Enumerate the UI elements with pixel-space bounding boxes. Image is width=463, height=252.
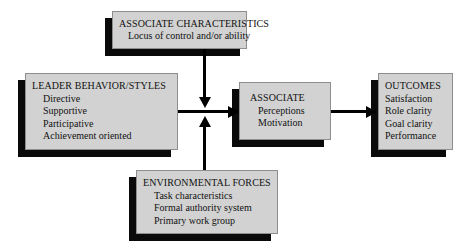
box-item: Supportive (32, 105, 171, 118)
box-title: LEADER BEHAVIOR/STYLES (32, 80, 171, 93)
box-leader-behavior-styles: LEADER BEHAVIOR/STYLES Directive Support… (25, 73, 178, 150)
box-title: OUTCOMES (385, 80, 446, 93)
box-item: Motivation (250, 117, 324, 130)
connector-characteristics-to-associate-arrowhead (199, 97, 211, 108)
box-face: ASSOCIATE Perceptions Motivation (239, 82, 331, 140)
box-item: Directive (32, 93, 171, 106)
box-item: Primary work group (143, 215, 271, 228)
box-item: Goal clarity (385, 118, 446, 131)
box-item: Achievement oriented (32, 130, 171, 143)
box-item: Task characteristics (143, 190, 271, 203)
box-face: OUTCOMES Satisfaction Role clarity Goal … (378, 73, 453, 150)
box-environmental-forces: ENVIRONMENTAL FORCES Task characteristic… (136, 170, 278, 234)
connector-associate-to-outcomes-arrowhead (366, 106, 377, 118)
connector-leader-to-associate-arrowhead (228, 106, 239, 118)
box-title: ASSOCIATE (250, 92, 324, 105)
box-title: ASSOCIATE CHARACTERISTICS (119, 18, 240, 31)
path-goal-leadership-diagram: ASSOCIATE CHARACTERISTICS Locus of contr… (0, 0, 463, 252)
box-item: Formal authority system (143, 202, 271, 215)
box-item: Performance (385, 130, 446, 143)
box-face: ASSOCIATE CHARACTERISTICS Locus of contr… (112, 11, 247, 49)
box-face: ENVIRONMENTAL FORCES Task characteristic… (136, 170, 278, 234)
box-title: ENVIRONMENTAL FORCES (143, 177, 271, 190)
box-item: Locus of control and/or ability (119, 30, 240, 43)
connector-characteristics-to-associate-line (203, 49, 206, 102)
box-associate: ASSOCIATE Perceptions Motivation (239, 82, 331, 140)
box-outcomes: OUTCOMES Satisfaction Role clarity Goal … (378, 73, 453, 150)
connector-environment-to-associate-arrowhead (199, 116, 211, 127)
box-item: Role clarity (385, 105, 446, 118)
box-item: Perceptions (250, 105, 324, 118)
box-item: Satisfaction (385, 93, 446, 106)
connector-associate-to-outcomes-line (331, 110, 368, 113)
box-face: LEADER BEHAVIOR/STYLES Directive Support… (25, 73, 178, 150)
box-associate-characteristics: ASSOCIATE CHARACTERISTICS Locus of contr… (112, 11, 247, 49)
connector-environment-to-associate-line (203, 122, 206, 170)
box-item: Participative (32, 118, 171, 131)
